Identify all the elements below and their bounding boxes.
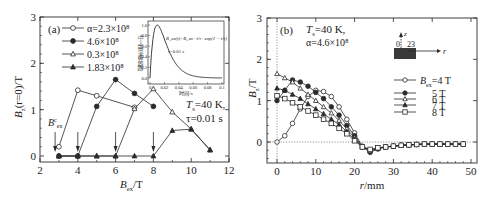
x-axis-label: r/mm	[360, 179, 385, 191]
arrow-head-icon	[76, 146, 80, 152]
data-point	[306, 84, 311, 89]
data-point	[290, 100, 295, 105]
arrow-head-icon	[114, 146, 118, 152]
data-point	[275, 71, 280, 75]
legend-item: α=2.3×10⁸	[87, 23, 130, 34]
x-tick-label: 10	[186, 164, 198, 176]
data-point	[321, 96, 326, 101]
data-point	[94, 104, 99, 109]
temperature-label: Ts=40 K,	[186, 98, 226, 112]
y-axis-label: Bz(r=0)/T	[12, 76, 26, 118]
series-3	[57, 126, 213, 157]
x-tick-label: 50	[466, 165, 478, 177]
x-axis-label: Bex/T	[120, 178, 143, 192]
sample-schematic: zr023	[394, 30, 447, 59]
svg-text:0.02: 0.02	[160, 85, 168, 90]
data-point	[329, 105, 334, 110]
data-point	[461, 142, 466, 147]
inset-y-label: 归一化脉冲磁场强度	[137, 35, 144, 72]
series-1	[57, 77, 156, 158]
data-point	[113, 77, 118, 82]
data-point	[337, 126, 342, 131]
data-point	[453, 142, 458, 147]
svg-text:0: 0	[396, 40, 400, 49]
legend-item: 8 T	[432, 107, 445, 118]
data-point	[306, 109, 311, 114]
svg-text:0.06: 0.06	[189, 85, 198, 90]
svg-text:0.0: 0.0	[141, 76, 147, 81]
data-point	[306, 101, 311, 105]
data-point	[94, 93, 99, 98]
x-tick-label: 12	[224, 164, 235, 176]
svg-text:z: z	[403, 30, 407, 38]
inset-tau: τ=0.01 s	[168, 49, 184, 54]
data-point	[329, 117, 334, 121]
x-tick-label: 6	[113, 164, 119, 176]
data-point	[151, 104, 156, 109]
data-point	[290, 92, 295, 96]
data-point	[422, 142, 427, 147]
data-point	[403, 110, 407, 114]
panel-b-chart: 010203040500123Bz/Tr/mm(b)Ts=40 K,α=4.6×…	[246, 12, 477, 191]
svg-text:1.0: 1.0	[141, 23, 147, 28]
data-point	[282, 96, 287, 101]
data-point	[314, 113, 319, 118]
data-point	[275, 98, 280, 103]
data-point	[403, 91, 407, 95]
x-tick-label: 4	[75, 164, 81, 176]
legend: Bex=4 T5 T6 T7 T8 T	[394, 75, 451, 118]
data-point	[275, 93, 280, 98]
data-point	[321, 117, 326, 122]
data-point	[75, 88, 80, 93]
data-point	[321, 89, 326, 94]
svg-text:0.1: 0.1	[219, 85, 225, 90]
data-point	[57, 144, 62, 149]
svg-text:0.04: 0.04	[175, 85, 184, 90]
arrow-head-icon	[53, 146, 57, 152]
y-tick-label: 0	[31, 150, 37, 162]
data-point	[352, 138, 357, 143]
data-point	[445, 142, 450, 147]
data-point	[329, 111, 334, 115]
panel-label: (b)	[280, 24, 293, 37]
data-point	[314, 90, 319, 95]
data-point	[360, 145, 365, 150]
y-tick-label: 3	[31, 11, 37, 23]
legend-item: 1.83×10⁸	[87, 62, 124, 73]
data-point	[321, 111, 326, 115]
data-point	[414, 142, 419, 147]
bexc-label: Bcex	[48, 117, 62, 129]
tau-label: τ=0.01 s	[186, 112, 223, 124]
data-point	[298, 80, 303, 85]
inset-x-label: 时间/s	[179, 90, 192, 97]
svg-text:r: r	[443, 47, 447, 56]
data-point	[282, 134, 287, 139]
data-point	[275, 140, 280, 145]
data-point	[314, 98, 319, 102]
data-point	[132, 91, 137, 96]
data-point	[403, 103, 407, 107]
data-point	[376, 145, 381, 150]
data-point	[151, 86, 156, 91]
data-point	[345, 117, 350, 122]
temperature-label: Ts=40 K,	[306, 23, 346, 37]
y-tick-label: 3	[257, 12, 263, 24]
svg-text:23: 23	[407, 40, 415, 49]
data-point	[399, 143, 404, 148]
x-tick-label: 2	[37, 164, 43, 176]
panel-a-chart: 246810120123Bz(r=0)/TBex/TBcex(a)α=2.3×1…	[12, 11, 235, 192]
x-tick-label: 0	[274, 165, 280, 177]
figure: 246810120123Bz(r=0)/TBex/TBcex(a)α=2.3×1…	[0, 0, 487, 200]
y-tick-label: 2	[31, 57, 37, 69]
x-tick-label: 10	[310, 165, 322, 177]
data-point	[314, 106, 319, 110]
x-tick-label: 40	[427, 165, 439, 177]
data-point	[391, 144, 396, 149]
series-0	[57, 88, 137, 149]
data-point	[71, 26, 76, 31]
x-tick-label: 20	[349, 165, 361, 177]
r-axis-arrow-icon	[437, 49, 441, 53]
data-point	[430, 142, 435, 147]
arrow-head-icon	[151, 146, 155, 152]
data-point	[329, 94, 334, 99]
